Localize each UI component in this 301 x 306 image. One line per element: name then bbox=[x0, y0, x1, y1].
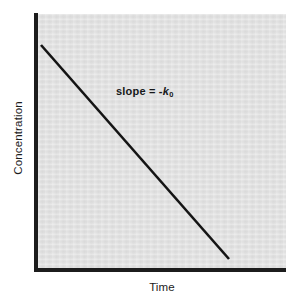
slope-annotation-prefix: slope = - bbox=[116, 85, 163, 97]
x-axis-label: Time bbox=[38, 281, 286, 293]
figure-container: slope = -k0 Concentration Time bbox=[0, 0, 301, 306]
plot-panel bbox=[38, 14, 286, 270]
slope-annotation: slope = -k0 bbox=[116, 85, 173, 97]
y-axis-spine bbox=[34, 13, 38, 272]
rate-constant-subscript: 0 bbox=[169, 90, 173, 99]
y-axis-label: Concentration bbox=[10, 58, 26, 218]
x-axis-spine bbox=[34, 268, 286, 272]
